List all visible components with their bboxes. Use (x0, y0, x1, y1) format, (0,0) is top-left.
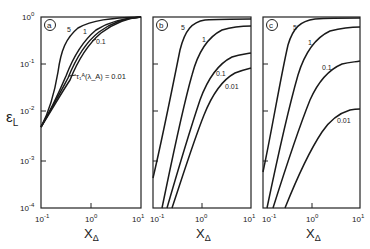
svg-text:100: 100 (85, 213, 98, 224)
svg-text:100: 100 (195, 213, 208, 224)
label-c-0.01: 0.01 (337, 117, 351, 124)
x-tick-labels-c: 10-1 100 101 (262, 213, 365, 224)
svg-text:10-3: 10-3 (20, 155, 35, 166)
label-c-1: 1 (308, 39, 312, 46)
x-tick-labels-a: 10-1 100 101 (35, 213, 145, 224)
x-axis-label-b: XΔ (196, 226, 211, 243)
svg-text:10-1: 10-1 (35, 213, 50, 224)
annotation-a: τ₁ᴬ(λ_A) = 0.01 (76, 72, 126, 81)
label-c-0.1: 0.1 (322, 64, 332, 71)
svg-text:10-1: 10-1 (262, 213, 277, 224)
panel-c-letter: c (269, 21, 273, 30)
figure-canvas: εL 100 10-1 10-2 10-3 10-4 a 5 1 0.1 τ₁ᴬ… (0, 0, 370, 249)
panel-b: b 5 1 0.1 0.01 10-1 100 101 XΔ (150, 17, 256, 243)
label-b-0.1: 0.1 (216, 70, 226, 77)
label-c-5: 5 (293, 24, 297, 31)
svg-text:10-1: 10-1 (20, 58, 35, 69)
curve-c-0.1 (273, 61, 360, 208)
y-tick-labels: 100 10-1 10-2 10-3 10-4 (20, 11, 35, 213)
svg-text:10-4: 10-4 (20, 202, 35, 213)
panel-a-letter: a (47, 21, 52, 30)
svg-text:10-2: 10-2 (20, 105, 35, 116)
label-b-0.01: 0.01 (225, 83, 239, 90)
x-tick-labels-b: 10-1 100 101 (150, 213, 256, 224)
label-b-1: 1 (202, 36, 206, 43)
x-axis-label-c: XΔ (306, 226, 321, 243)
svg-text:101: 101 (132, 213, 145, 224)
y-axis-label: εL (6, 108, 19, 128)
panel-a: a 5 1 0.1 τ₁ᴬ(λ_A) = 0.01 10-1 100 101 X… (35, 17, 145, 243)
svg-text:10-1: 10-1 (150, 213, 165, 224)
panel-b-letter: b (159, 21, 164, 30)
svg-text:101: 101 (243, 213, 256, 224)
svg-text:100: 100 (22, 11, 35, 22)
curve-b-0.01 (172, 68, 251, 208)
svg-text:101: 101 (352, 213, 365, 224)
x-axis-label-a: XΔ (84, 226, 99, 243)
label-a-0.1: 0.1 (96, 38, 106, 45)
svg-text:100: 100 (306, 213, 319, 224)
label-a-1: 1 (83, 28, 87, 35)
label-a-5: 5 (67, 26, 71, 33)
panel-c: c 5 1 0.1 0.01 10-1 100 101 XΔ (262, 17, 365, 243)
label-b-5: 5 (181, 24, 185, 31)
